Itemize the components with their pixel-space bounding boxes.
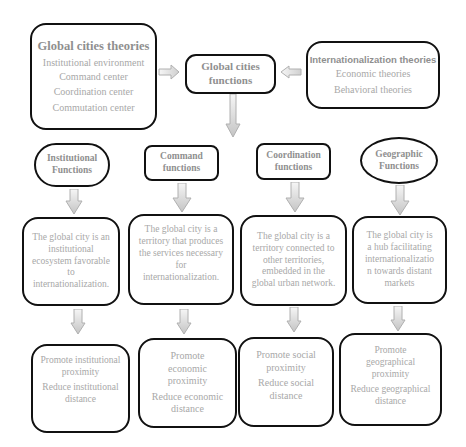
description-line: embedded in the (262, 266, 325, 278)
outcome-line: proximity (266, 362, 305, 375)
description-line: to (67, 267, 74, 279)
theory-item: Command center (59, 71, 128, 84)
description-line: The global city is (366, 230, 432, 242)
outcome-line: proximity (62, 367, 99, 379)
geographic-description-box: The global city is a hub facilitating in… (352, 216, 447, 304)
center-title-line2: functions (209, 74, 252, 88)
institutional-description-box: The global city is an institutional ecos… (22, 217, 120, 306)
description-line: The global city is a (257, 231, 330, 243)
description-line: internationalization. (143, 272, 219, 284)
theory-item: Coordination center (54, 86, 134, 99)
institutional-functions-header: Institutional Functions (34, 143, 110, 187)
outcome-line: Promote (374, 345, 406, 357)
command-functions-header: Command functions (144, 145, 219, 181)
description-line: territory connected to (253, 243, 335, 255)
outcome-line: distance (171, 403, 204, 416)
outcome-line: distance (65, 394, 96, 406)
outcome-line: Promote (171, 350, 205, 363)
outcome-line: Promote social (256, 349, 316, 362)
header-line: Functions (52, 165, 92, 177)
outcome-line: Promote institutional (41, 355, 121, 367)
arrow-down-icon (65, 189, 83, 215)
arrow-down-icon (225, 94, 241, 138)
intl-theory-item: Economic theories (336, 68, 411, 81)
internationalization-theories-box: Internationalization theories Economic t… (306, 41, 440, 109)
outcome-line: economic (168, 363, 207, 376)
outcome-line: Reduce institutional (42, 382, 118, 394)
description-line: The global city is a (145, 224, 218, 236)
description-line: The global city is an (32, 232, 110, 244)
arrow-down-icon (70, 309, 86, 335)
header-line: functions (163, 163, 200, 175)
header-line: Functions (379, 161, 419, 173)
header-line: Geographic (375, 149, 423, 161)
outcome-line: Reduce economic (152, 391, 223, 404)
header-line: Institutional (47, 153, 97, 165)
arrow-down-icon (176, 309, 192, 335)
coordination-outcome-box: Promote social proximity Reduce social d… (238, 337, 334, 427)
geographic-outcome-box: Promote geographical proximity Reduce ge… (339, 333, 442, 426)
global-cities-theories-title: Global cities theories (38, 39, 150, 55)
description-line: territory that produces (139, 236, 223, 248)
theory-item: Commutation center (53, 102, 135, 115)
description-line: n towards distant (367, 266, 432, 278)
description-line: the services necessary (139, 248, 223, 260)
header-line: functions (275, 162, 312, 174)
global-cities-functions-box: Global cities functions (185, 54, 276, 94)
outcome-line: distance (270, 390, 303, 403)
description-line: internationalizatio (365, 254, 434, 266)
intl-theories-title: Internationalization theories (310, 54, 437, 66)
outcome-line: distance (375, 396, 406, 408)
header-line: Coordination (266, 150, 320, 162)
center-title-line1: Global cities (201, 60, 259, 74)
command-description-box: The global city is a territory that prod… (128, 214, 234, 305)
arrow-down-icon (286, 307, 302, 333)
arrow-right-icon (158, 64, 180, 80)
description-line: institutional (48, 244, 93, 256)
description-line: for (175, 260, 186, 272)
outcome-line: proximity (372, 369, 409, 381)
outcome-line: Reduce geographical (351, 384, 431, 396)
arrow-left-icon (280, 65, 302, 79)
coordination-description-box: The global city is a territory connected… (240, 215, 347, 306)
description-line: global urban network. (252, 278, 336, 290)
outcome-line: Reduce social (258, 377, 314, 390)
arrow-down-icon (390, 185, 410, 216)
intl-theory-item: Behavioral theories (334, 84, 412, 97)
coordination-functions-header: Coordination functions (256, 143, 331, 180)
description-line: markets (384, 278, 414, 290)
arrow-down-icon (172, 183, 192, 213)
global-cities-theories-box: Global cities theories Institutional env… (30, 23, 157, 130)
command-outcome-box: Promote economic proximity Reduce econom… (138, 338, 237, 428)
geographic-functions-header: Geographic Functions (360, 137, 438, 184)
arrow-down-icon (390, 306, 406, 332)
description-line: ecosystem favorable (32, 256, 110, 268)
outcome-line: proximity (168, 375, 207, 388)
description-line: other territories, (263, 255, 324, 267)
description-line: a hub facilitating (367, 242, 431, 254)
theory-item: Institutional environment (43, 57, 144, 70)
description-line: internationalization. (33, 279, 109, 291)
arrow-down-icon (285, 182, 305, 213)
outcome-line: geographical (366, 357, 415, 369)
institutional-outcome-box: Promote institutional proximity Reduce i… (31, 344, 130, 433)
header-line: Command (160, 151, 203, 163)
